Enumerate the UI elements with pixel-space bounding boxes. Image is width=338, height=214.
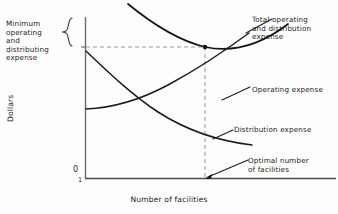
total-expense-label: Total operating and distribution expense	[252, 16, 336, 42]
operating-leader-line	[222, 87, 250, 100]
distribution-expense-label: Distribution expense	[234, 126, 334, 135]
y-axis-label: Dollars	[7, 81, 16, 135]
origin-zero-label: 0	[73, 166, 78, 175]
minimum-expense-brace-label: Minimum operating and distributing expen…	[6, 20, 66, 63]
operating-expense-curve	[86, 33, 249, 109]
x-axis-label: Number of facilities	[0, 196, 338, 205]
chart-figure: Minimum operating and distributing expen…	[0, 0, 338, 214]
operating-expense-label: Operating expense	[252, 86, 338, 95]
optimal-facilities-arrow	[205, 160, 248, 179]
guide-lines-group	[86, 47, 205, 178]
minimum-point-marker	[203, 45, 207, 49]
distribution-leader-line	[213, 130, 233, 139]
optimal-facilities-label: Optimal number of facilities	[248, 157, 334, 174]
origin-one-label: 1	[78, 176, 82, 185]
